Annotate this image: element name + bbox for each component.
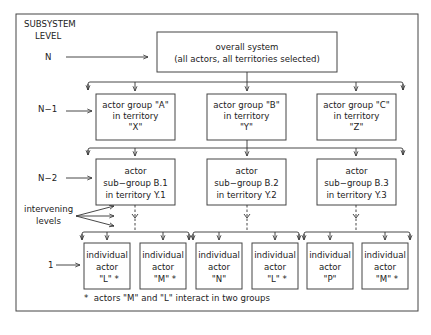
intervening-arrow-3 [76, 216, 114, 226]
group-c-line-1: actor group "C" [323, 100, 390, 110]
subgroup-b1-line-1: actor [124, 166, 147, 176]
individual-box-l-2: individual actor "L" * [252, 243, 298, 289]
individual-box-n: individual actor "N" [196, 243, 242, 289]
intervening-label-line-1: intervening [24, 204, 73, 214]
group-c-line-2: in territory [334, 111, 380, 121]
individual-box-m-1: individual actor "M" * [140, 243, 186, 289]
individual-6-line-1: individual [364, 250, 406, 260]
subgroup-b1-line-3: in territory Y.1 [105, 190, 165, 200]
group-box-b: actor group "B" in territory "Y" [207, 94, 286, 140]
intervening-dashed-connectors [132, 205, 359, 232]
group-box-c: actor group "C" in territory "Z" [317, 94, 396, 140]
group-b-line-1: actor group "B" [213, 100, 279, 110]
footnote: * actors "M" and "L" interact in two gro… [84, 293, 271, 303]
individual-1-line-1: individual [86, 250, 128, 260]
group-a-line-2: in territory [113, 111, 159, 121]
individual-2-line-1: individual [142, 250, 184, 260]
connector-top-to-groups [88, 72, 403, 91]
subgroup-b2-line-3: in territory Y.2 [216, 190, 276, 200]
connector-group-b-to-subgroups [88, 140, 403, 156]
group-b-line-2: in territory [224, 111, 270, 121]
level-label-n: N [45, 52, 51, 62]
subgroup-b3-line-1: actor [345, 166, 368, 176]
connector-subgroups-to-individuals [82, 232, 410, 240]
subgroup-b3-line-3: in territory Y.3 [326, 190, 386, 200]
individual-6-line-2: actor [374, 262, 397, 272]
subsystem-hierarchy-diagram: SUBSYSTEM LEVEL N N−1 N−2 1 intervening … [0, 0, 431, 335]
individual-5-line-2: actor [319, 262, 342, 272]
intervening-label-line-2: levels [36, 216, 61, 226]
subgroup-b2-line-1: actor [235, 166, 258, 176]
individual-4-line-1: individual [254, 250, 296, 260]
individual-5-line-1: individual [309, 250, 351, 260]
overall-system-line-2: (all actors, all territories selected) [174, 54, 320, 64]
individual-5-line-3: "P" [323, 274, 336, 284]
level-label-n-2: N−2 [38, 173, 57, 183]
subgroup-box-b3: actor sub−group B.3 in territory Y.3 [317, 159, 396, 205]
individual-1-line-3: "L" * [99, 274, 119, 284]
individual-3-line-2: actor [208, 262, 231, 272]
intervening-arrow-1 [76, 206, 114, 216]
level-header-line-1: SUBSYSTEM [24, 19, 76, 29]
individual-3-line-3: "N" [212, 274, 226, 284]
subgroup-b3-line-2: sub−group B.3 [324, 178, 388, 188]
group-c-line-3: "Z" [350, 122, 364, 132]
individual-4-line-3: "L" * [267, 274, 287, 284]
subgroup-b1-line-2: sub−group B.1 [103, 178, 167, 188]
level-header-line-2: LEVEL [35, 31, 62, 41]
subgroup-box-b1: actor sub−group B.1 in territory Y.1 [96, 159, 175, 205]
individual-2-line-2: actor [152, 262, 175, 272]
group-box-a: actor group "A" in territory "X" [96, 94, 175, 140]
individual-1-line-2: actor [96, 262, 119, 272]
group-a-line-1: actor group "A" [102, 100, 168, 110]
individual-box-m-2: individual actor "M" * [362, 243, 408, 289]
overall-system-box [157, 32, 337, 72]
group-a-line-3: "X" [129, 122, 143, 132]
subgroup-b2-line-2: sub−group B.2 [214, 178, 278, 188]
overall-system-line-1: overall system [215, 42, 278, 52]
individual-2-line-3: "M" * [154, 274, 177, 284]
individual-3-line-1: individual [198, 250, 240, 260]
level-label-n-1: N−1 [38, 104, 57, 114]
individual-4-line-2: actor [264, 262, 287, 272]
group-b-line-3: "Y" [240, 122, 253, 132]
level-label-1: 1 [48, 260, 53, 270]
subgroup-box-b2: actor sub−group B.2 in territory Y.2 [207, 159, 286, 205]
individual-6-line-3: "M" * [376, 274, 399, 284]
individual-box-l-1: individual actor "L" * [84, 243, 130, 289]
individual-box-p: individual actor "P" [307, 243, 353, 289]
